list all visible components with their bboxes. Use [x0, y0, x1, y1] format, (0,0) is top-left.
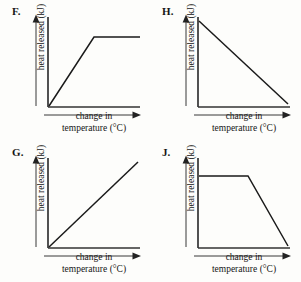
panel-letter-j: J.	[162, 147, 170, 158]
x-axis-label-line2: temperature (°C)	[192, 123, 296, 135]
plot-area-h: heat released (kJ) change in temperature…	[178, 14, 296, 136]
x-axis-label-line1: change in	[42, 252, 146, 264]
plot-area-j: heat released (kJ) change in temperature…	[178, 155, 296, 277]
figure-grid: F. heat released (kJ) change in temperat…	[0, 0, 301, 282]
panel-j: J. heat released (kJ) change in temperat…	[150, 141, 301, 282]
x-axis-label-line1: change in	[192, 111, 296, 123]
x-axis-label-line2: temperature (°C)	[42, 264, 146, 276]
data-curve-h	[199, 21, 288, 104]
plot-area-f: heat released (kJ) change in temperature…	[28, 14, 146, 136]
x-axis-label: change in temperature (°C)	[192, 111, 296, 134]
data-curve-g	[49, 162, 138, 247]
x-axis-label: change in temperature (°C)	[192, 252, 296, 275]
panel-g: G. heat released (kJ) change in temperat…	[0, 141, 150, 282]
data-curve-j	[199, 176, 288, 246]
y-axis-arrow-head-icon	[183, 15, 190, 23]
panel-f: F. heat released (kJ) change in temperat…	[0, 0, 150, 141]
data-curve-f	[49, 37, 140, 106]
panel-letter-g: G.	[12, 147, 24, 158]
x-axis-label: change in temperature (°C)	[42, 111, 146, 134]
y-axis-arrow-head-icon	[33, 156, 40, 164]
y-axis-arrow-head-icon	[183, 156, 190, 164]
plot-area-g: heat released (kJ) change in temperature…	[28, 155, 146, 277]
x-axis-label-line2: temperature (°C)	[42, 123, 146, 135]
x-axis-label-line1: change in	[192, 252, 296, 264]
x-axis-label-line1: change in	[42, 111, 146, 123]
x-axis-label: change in temperature (°C)	[42, 252, 146, 275]
panel-letter-h: H.	[162, 6, 174, 17]
panel-letter-f: F.	[12, 6, 21, 17]
x-axis-label-line2: temperature (°C)	[192, 264, 296, 276]
panel-h: H. heat released (kJ) change in temperat…	[150, 0, 301, 141]
y-axis-arrow-head-icon	[33, 15, 40, 23]
